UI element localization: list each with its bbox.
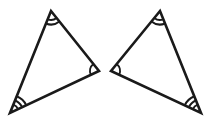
bottom-left-arc-1 [13,105,18,110]
triangle-right-outline [111,11,201,113]
triangle-right [111,11,201,113]
bottom-right-arc-3 [185,96,195,105]
triangle-left-outline [10,11,99,113]
apex-arc-2 [46,22,59,25]
bottom-left-arc-3 [17,96,27,105]
geometry-figure [0,0,211,125]
triangle-left [10,11,99,113]
bottom-right-arc-1 [193,105,198,110]
triangles-diagram [0,0,211,125]
